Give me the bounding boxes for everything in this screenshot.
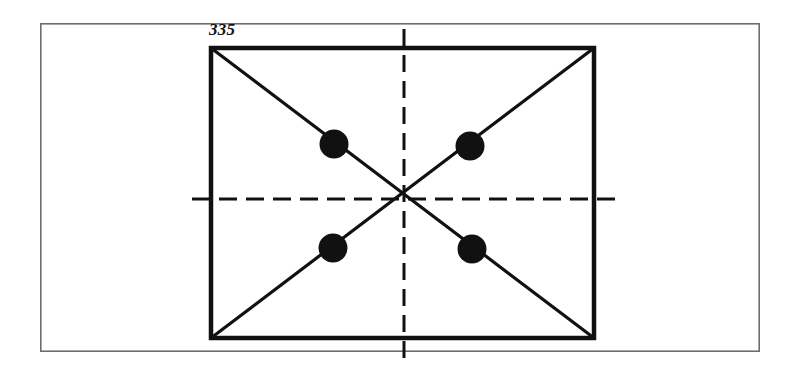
- figure-drawing: [0, 0, 801, 375]
- dot-lower-left: [319, 234, 348, 263]
- page-background: [0, 0, 801, 375]
- dot-upper-left: [320, 130, 349, 159]
- dot-lower-right: [458, 235, 487, 264]
- figure-number-label: 335: [209, 21, 235, 38]
- dot-upper-right: [456, 132, 485, 161]
- figure-canvas: 335: [0, 0, 801, 375]
